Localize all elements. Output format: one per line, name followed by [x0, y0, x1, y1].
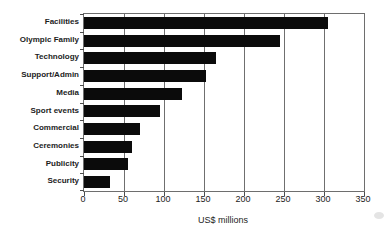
- bar: [84, 17, 328, 29]
- y-axis-tick: [80, 120, 84, 121]
- y-axis-tick: [80, 85, 84, 86]
- category-label: Ceremonies: [0, 137, 79, 155]
- category-label: Publicity: [0, 155, 79, 173]
- x-tick-label: 200: [235, 194, 250, 204]
- category-label: Support/Admin: [0, 66, 79, 84]
- y-axis-tick: [80, 32, 84, 33]
- y-axis-tick: [80, 138, 84, 139]
- x-tick-label: 150: [195, 194, 210, 204]
- x-axis-title: US$ millions: [83, 215, 363, 225]
- y-axis-tick: [80, 156, 84, 157]
- category-axis-labels: FacilitiesOlympic FamilyTechnologySuppor…: [0, 13, 79, 190]
- plot-area: [83, 13, 365, 192]
- y-axis-tick: [80, 173, 84, 174]
- category-label: Technology: [0, 48, 79, 66]
- bar: [84, 141, 132, 153]
- x-tick-label: 50: [118, 194, 128, 204]
- bar: [84, 176, 110, 188]
- x-tick-label: 100: [155, 194, 170, 204]
- category-label: Commercial: [0, 119, 79, 137]
- category-label: Sport events: [0, 102, 79, 120]
- x-tick-label: 250: [275, 194, 290, 204]
- x-tick-label: 0: [80, 194, 85, 204]
- bar: [84, 70, 206, 82]
- bar: [84, 35, 280, 47]
- bar: [84, 88, 182, 100]
- bar: [84, 123, 140, 135]
- y-axis-tick: [80, 49, 84, 50]
- scan-artifact-mark: [374, 212, 384, 219]
- y-axis-tick: [80, 67, 84, 68]
- bar: [84, 105, 160, 117]
- gridline: [324, 14, 325, 191]
- category-label: Security: [0, 172, 79, 190]
- category-label: Facilities: [0, 13, 79, 31]
- x-tick-label: 350: [355, 194, 370, 204]
- bar: [84, 158, 128, 170]
- y-axis-tick: [80, 103, 84, 104]
- gridline: [284, 14, 285, 191]
- bar-chart: FacilitiesOlympic FamilyTechnologySuppor…: [0, 0, 390, 240]
- category-label: Olympic Family: [0, 31, 79, 49]
- y-axis-tick: [80, 14, 84, 15]
- y-axis-tick: [80, 190, 84, 191]
- category-label: Media: [0, 84, 79, 102]
- bar: [84, 52, 216, 64]
- x-tick-label: 300: [315, 194, 330, 204]
